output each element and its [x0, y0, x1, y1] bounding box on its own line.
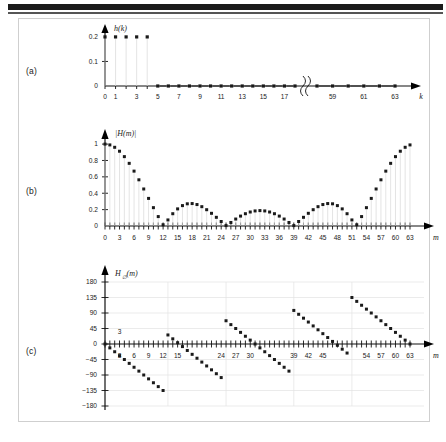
panel-b-ytick-label: 0.6 [89, 173, 98, 180]
panel-c-data-marker [292, 309, 295, 312]
panel-b-data-marker [350, 218, 353, 221]
panel-c-data-marker [355, 300, 358, 303]
panel-c-data-marker [268, 354, 271, 357]
panel-c-data-marker [162, 389, 165, 392]
panel-a-data-marker [378, 84, 381, 87]
panel-c-ytick-label: 135 [86, 294, 97, 301]
panel-c-xtick-label: 54 [363, 352, 371, 359]
panel-c-data-marker [326, 336, 329, 339]
panel-c-data-marker [404, 339, 407, 342]
panel-a-ytick-label: 0 [94, 82, 98, 89]
panel-a-data-marker [146, 35, 149, 38]
panel-b-data-marker [186, 202, 189, 205]
panel-c-data-marker [171, 337, 174, 340]
panel-b-data-marker [244, 212, 247, 215]
panel-c-data-marker [375, 315, 378, 318]
panel-c-data-marker [258, 346, 261, 349]
panel-c-data-marker [113, 350, 116, 353]
panel-a-xtick-label: 5 [156, 93, 160, 100]
panel-b-data-marker [336, 204, 339, 207]
panel-a-data-marker [262, 84, 265, 87]
panel-c-data-marker [133, 366, 136, 369]
panel-c-data-marker [278, 362, 281, 365]
panel-b-data-marker [229, 221, 232, 224]
panel-b-data-marker [268, 210, 271, 213]
panel-a-ytick-label: 0.1 [89, 58, 98, 65]
panel-b-data-marker [263, 209, 266, 212]
panel-c-xtick-label: 9 [147, 352, 151, 359]
panel-b-y-axis-title: |H(m)| [115, 129, 136, 138]
panel-c-xtick-label: 45 [319, 352, 327, 359]
panel-b-data-marker [181, 204, 184, 207]
panel-a-data-marker [283, 84, 286, 87]
panel-b-data-marker [137, 178, 140, 181]
panel-c-data-marker [317, 328, 320, 331]
panel-c-data-marker [331, 340, 334, 343]
panel-c-y-axis-title-main: H [114, 269, 122, 278]
panel-c-data-marker [205, 364, 208, 367]
panel-b-x-arrow [424, 222, 434, 229]
panel-b-y-arrow [101, 129, 108, 139]
panel-b-data-marker [162, 223, 165, 226]
panel-b-data-marker [321, 203, 324, 206]
panel-a-data-marker [114, 35, 117, 38]
panel-c-xtick-label: 60 [392, 352, 400, 359]
panel-c-data-marker [254, 343, 257, 346]
panel-c-data-marker [312, 324, 315, 327]
panel-b-data-marker [104, 143, 107, 146]
panel-c-data-marker [157, 385, 160, 388]
panel-c-data-marker [307, 321, 310, 324]
panel-b-data-marker [297, 220, 300, 223]
panel-c-y-axis-title-arg: (m) [127, 269, 138, 278]
panel-b-data-marker [147, 197, 150, 200]
panel-c-data-marker [350, 296, 353, 299]
panel-b-x-axis-title: m [433, 233, 439, 242]
plot-panel-b: 00.20.40.60.81|H(m)|03691215182124273033… [60, 126, 440, 250]
panel-b-data-marker [302, 216, 305, 219]
panel-c-xtick-label: 15 [174, 352, 182, 359]
panel-a-data-marker [393, 84, 396, 87]
panel-a-xtick-label: 15 [260, 93, 268, 100]
panel-b-data-marker [254, 209, 257, 212]
panel-c-data-marker [137, 370, 140, 373]
panel-c-data-marker [302, 317, 305, 320]
panel-c-data-marker [195, 357, 198, 360]
panel-c-data-marker [215, 372, 218, 375]
panel-b-data-marker [108, 143, 111, 146]
panel-b-data-marker [113, 146, 116, 149]
panel-a-y-axis-title: h(k) [114, 24, 127, 33]
panel-a-xtick-label: 63 [391, 93, 399, 100]
panel-c-data-marker [346, 352, 349, 355]
panel-a-data-marker [198, 84, 201, 87]
panel-a-data-marker [209, 84, 212, 87]
panel-c-data-marker [234, 327, 237, 330]
panel-c-ytick-label: −45 [86, 356, 98, 363]
panel-c-xtick-label: 27 [232, 352, 240, 359]
panel-b-data-marker [258, 209, 261, 212]
panel-b-data-marker [312, 208, 315, 211]
panel-b-data-marker [157, 215, 160, 218]
panel-c-data-marker [249, 339, 252, 342]
panel-a-xtick-label: 0 [103, 93, 107, 100]
panel-c-data-marker [273, 358, 276, 361]
panel-a-x-axis-title: k [419, 92, 423, 101]
panel-c-ytick-label: −135 [82, 387, 97, 394]
panel-c-xtick-label: 57 [377, 352, 385, 359]
panel-a-data-marker [156, 84, 159, 87]
panel-b-xtick-label: 18 [188, 234, 196, 241]
panel-b-data-marker [384, 170, 387, 173]
panel-b-data-marker [191, 202, 194, 205]
panel-b-xtick-label: 0 [103, 234, 107, 241]
panel-c-xtick-label: 6 [132, 352, 136, 359]
panel-b-data-marker [287, 221, 290, 224]
panel-c-xtick-label: 30 [247, 352, 255, 359]
panel-c-x-arrow [424, 340, 434, 347]
panel-c-data-marker [370, 312, 373, 315]
panel-a-data-marker [241, 84, 244, 87]
panel-c-data-marker [104, 343, 107, 346]
panel-b-data-marker [355, 223, 358, 226]
panel-a-data-marker [177, 84, 180, 87]
panel-c-data-marker [239, 331, 242, 334]
panel-b-xtick-label: 45 [319, 234, 327, 241]
panel-a-data-marker [293, 84, 296, 87]
